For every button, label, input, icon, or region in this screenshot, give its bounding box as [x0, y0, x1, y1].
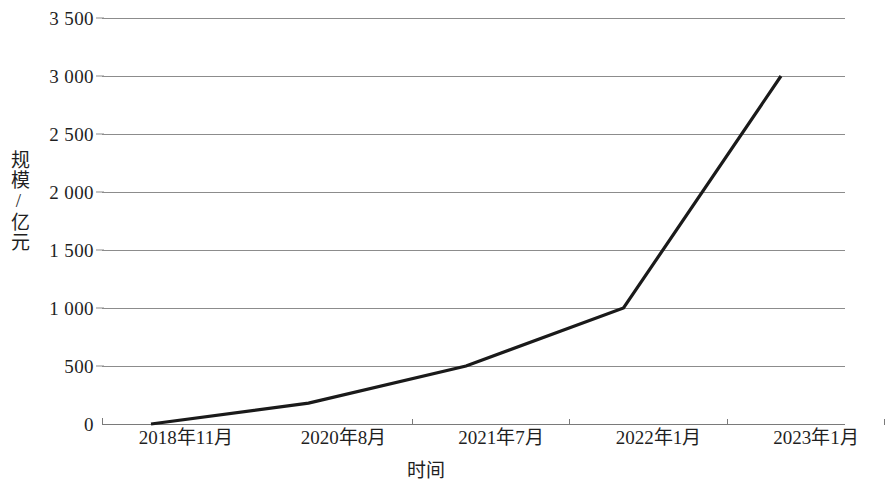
x-tick-mark	[569, 419, 570, 425]
data-line-series-1	[151, 76, 781, 424]
x-axis-title: 时间	[0, 455, 852, 482]
x-tick-mark	[727, 419, 728, 425]
x-tick-label: 2022年1月	[616, 428, 702, 448]
x-tick-label: 2020年8月	[301, 428, 387, 448]
x-tick-label: 2023年1月	[773, 428, 859, 448]
x-tick-mark	[412, 419, 413, 425]
x-tick-label: 2018年11月	[139, 428, 233, 448]
x-tick-label: 2021年7月	[458, 428, 544, 448]
